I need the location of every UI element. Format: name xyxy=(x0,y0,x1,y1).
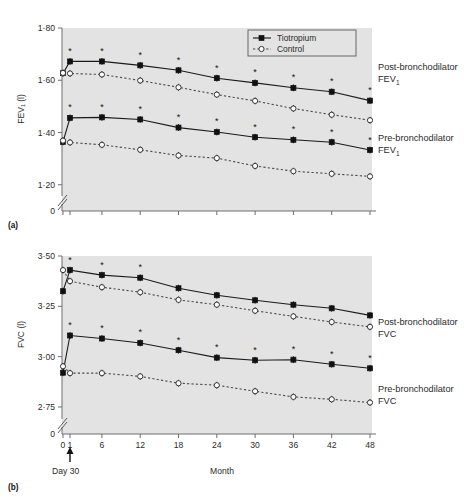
significance-asterisk: * xyxy=(215,63,219,73)
data-point-tiotropium xyxy=(291,85,296,90)
data-point-tiotropium xyxy=(138,117,143,122)
data-point-control xyxy=(367,400,372,405)
y-axis-title: FVC (l) xyxy=(16,321,26,348)
y-axis-tick-label: 1·60 xyxy=(38,75,55,85)
data-point-control xyxy=(291,169,296,174)
significance-asterisk: * xyxy=(138,50,142,60)
data-point-tiotropium xyxy=(61,289,66,294)
annotation-post-bronchodilator-fvc-line1: Post-bronchodilator xyxy=(378,317,458,327)
legend-label-control: Control xyxy=(277,44,304,54)
data-point-tiotropium xyxy=(68,333,73,338)
data-point-control xyxy=(60,70,65,75)
data-point-tiotropium xyxy=(368,148,373,153)
data-point-control xyxy=(329,319,334,324)
data-point-tiotropium xyxy=(368,366,373,371)
chart-svg-fvc: 02·753·003·253·5001612182430364248FVC (l… xyxy=(0,240,464,497)
legend-marker-control xyxy=(259,46,264,51)
x-axis-tick-label: 24 xyxy=(212,440,222,450)
data-point-control xyxy=(291,314,296,319)
legend-marker-tiotropium xyxy=(259,36,264,41)
significance-asterisk: * xyxy=(253,67,257,77)
panel-letter-b: (b) xyxy=(8,483,19,492)
data-point-control xyxy=(176,381,181,386)
panel-letter-a: (a) xyxy=(8,221,18,230)
data-point-control xyxy=(253,308,258,313)
data-point-tiotropium xyxy=(214,129,219,134)
data-point-tiotropium xyxy=(329,89,334,94)
data-point-control xyxy=(329,171,334,176)
data-point-control xyxy=(138,374,143,379)
data-point-control xyxy=(367,174,372,179)
day30-label: Day 30 xyxy=(52,466,79,476)
x-axis-tick-label: 42 xyxy=(327,440,337,450)
data-point-tiotropium xyxy=(99,336,104,341)
data-point-tiotropium xyxy=(68,59,73,64)
significance-asterisk: * xyxy=(292,72,296,82)
data-point-tiotropium xyxy=(61,370,66,375)
data-point-control xyxy=(99,142,104,147)
data-point-tiotropium xyxy=(99,115,104,120)
significance-asterisk: * xyxy=(330,127,334,137)
x-axis-tick-label: 12 xyxy=(135,440,145,450)
data-point-control xyxy=(99,371,104,376)
annotation-post-bronchodilator-fev1-line2: FEV1 xyxy=(378,74,400,86)
significance-asterisk: * xyxy=(100,102,104,112)
significance-asterisk: * xyxy=(100,323,104,333)
data-point-tiotropium xyxy=(329,140,334,145)
significance-asterisk: * xyxy=(215,342,219,352)
data-point-tiotropium xyxy=(291,137,296,142)
legend: TiotropiumControl xyxy=(248,30,356,56)
y-axis-tick-label: 0 xyxy=(50,429,55,439)
significance-asterisk: * xyxy=(177,335,181,345)
data-point-control xyxy=(253,163,258,168)
data-point-control xyxy=(367,118,372,123)
annotation-pre-bronchodilator-fvc-line1: Pre-bronchodilator xyxy=(378,384,454,394)
data-point-control xyxy=(291,106,296,111)
y-axis-tick-label: 3·00 xyxy=(38,352,55,362)
data-point-tiotropium xyxy=(138,340,143,345)
significance-asterisk: * xyxy=(138,262,142,272)
data-point-tiotropium xyxy=(291,357,296,362)
data-point-control xyxy=(67,71,72,76)
significance-asterisk: * xyxy=(68,320,72,330)
x-axis-tick-label: 18 xyxy=(174,440,184,450)
x-axis-tick-label: 48 xyxy=(365,440,375,450)
significance-asterisk: * xyxy=(368,353,372,363)
data-point-control xyxy=(291,394,296,399)
data-point-control xyxy=(214,92,219,97)
data-point-tiotropium xyxy=(253,298,258,303)
data-point-control xyxy=(367,324,372,329)
significance-asterisk: * xyxy=(100,260,104,270)
x-axis-title: Month xyxy=(210,466,234,476)
significance-asterisk: * xyxy=(368,135,372,145)
significance-asterisk: * xyxy=(138,104,142,114)
data-point-control xyxy=(253,98,258,103)
data-point-tiotropium xyxy=(253,358,258,363)
significance-asterisk: * xyxy=(138,327,142,337)
data-point-tiotropium xyxy=(214,355,219,360)
data-point-tiotropium xyxy=(368,313,373,318)
data-point-control xyxy=(138,290,143,295)
y-axis-title: FEV₁ (l) xyxy=(16,94,26,124)
data-point-control xyxy=(214,383,219,388)
data-point-control xyxy=(99,285,104,290)
day30-annotation: Day 30 xyxy=(52,447,79,476)
data-point-tiotropium xyxy=(138,63,143,68)
y-axis-tick-label: 2·75 xyxy=(38,402,55,412)
y-axis-tick-label: 1·40 xyxy=(38,128,55,138)
x-axis-tick-label: 0 xyxy=(61,440,66,450)
data-point-tiotropium xyxy=(368,98,373,103)
data-point-tiotropium xyxy=(329,306,334,311)
significance-asterisk: * xyxy=(253,345,257,355)
y-axis-tick-label: 0 xyxy=(50,206,55,216)
significance-asterisk: * xyxy=(68,255,72,265)
significance-asterisk: * xyxy=(292,344,296,354)
data-point-control xyxy=(214,156,219,161)
data-point-control xyxy=(67,371,72,376)
data-point-control xyxy=(214,302,219,307)
data-point-tiotropium xyxy=(253,80,258,85)
annotation-post-bronchodilator-fev1: Post-bronchodilatorFEV1 xyxy=(378,62,458,86)
significance-asterisk: * xyxy=(68,102,72,112)
chart-svg-fev1: 01·201·401·601·80FEV₁ (l)***************… xyxy=(0,0,464,240)
data-point-tiotropium xyxy=(176,348,181,353)
